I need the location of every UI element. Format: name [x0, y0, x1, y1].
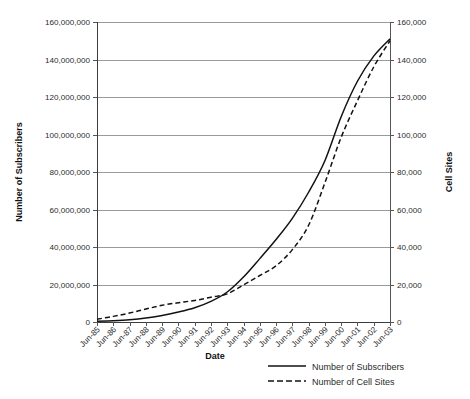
chart-container: 020,000,00040,000,00060,000,00080,000,00… — [0, 0, 470, 399]
y-tick-label-right: 160,000 — [397, 18, 427, 27]
y-tick-label-right: 20,000 — [397, 281, 422, 290]
y-tick-label-right: 0 — [397, 318, 402, 327]
y-axis-right-tick-labels: 020,00040,00060,00080,000100,000120,0001… — [397, 18, 427, 327]
y-tick-label-right: 120,000 — [397, 93, 427, 102]
y-tick-label-left: 20,000,000 — [49, 281, 90, 290]
y-axis-left-tickmarks — [93, 23, 97, 323]
x-axis-tick-labels: Jun-85Jun-86Jun-87Jun-88Jun-89Jun-90Jun-… — [78, 325, 395, 349]
y-tick-label-right: 40,000 — [397, 243, 422, 252]
y-tick-label-left: 40,000,000 — [49, 243, 90, 252]
chart-legend: Number of SubscribersNumber of Cell Site… — [268, 362, 405, 387]
gridlines — [97, 23, 390, 286]
y-tick-label-right: 60,000 — [397, 206, 422, 215]
legend-label: Number of Subscribers — [312, 362, 405, 372]
y-tick-label-left: 160,000,000 — [45, 18, 91, 27]
y-axis-left-title: Number of Subscribers — [14, 122, 24, 222]
y-tick-label-right: 80,000 — [397, 168, 422, 177]
y-tick-label-right: 140,000 — [397, 56, 427, 65]
y-tick-label-left: 120,000,000 — [45, 93, 91, 102]
y-tick-label-right: 100,000 — [397, 131, 427, 140]
series-line-subscribers — [97, 39, 390, 321]
x-axis-title: Date — [205, 351, 225, 361]
y-axis-left-tick-labels: 020,000,00040,000,00060,000,00080,000,00… — [45, 18, 91, 327]
y-tick-label-left: 100,000,000 — [45, 131, 91, 140]
y-tick-label-left: 140,000,000 — [45, 56, 91, 65]
legend-label: Number of Cell Sites — [312, 377, 395, 387]
subscribers-vs-cell-sites-chart: 020,000,00040,000,00060,000,00080,000,00… — [0, 0, 470, 399]
y-tick-label-left: 60,000,000 — [49, 206, 90, 215]
data-series-layer — [97, 39, 390, 321]
y-axis-right-title: Cell Sites — [444, 152, 454, 193]
y-tick-label-left: 80,000,000 — [49, 168, 90, 177]
y-tick-label-left: 0 — [85, 318, 90, 327]
